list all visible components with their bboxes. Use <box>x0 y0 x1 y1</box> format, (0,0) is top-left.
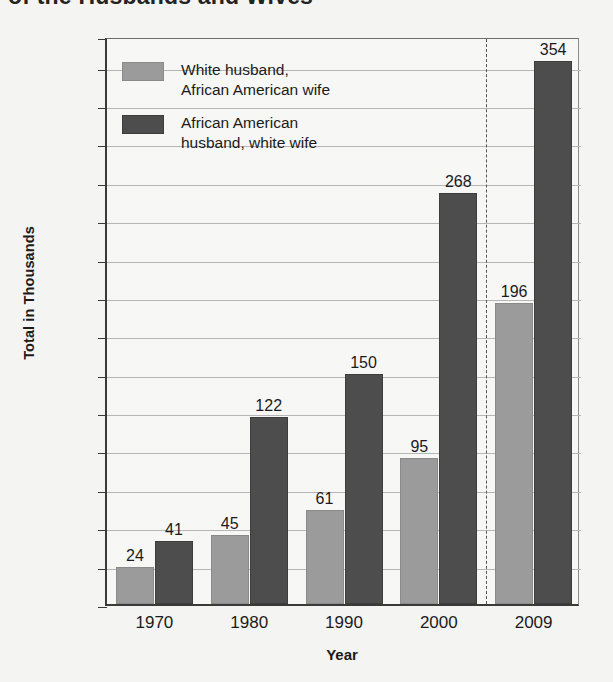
gridline <box>107 262 581 263</box>
y-axis-tick <box>98 300 107 301</box>
legend-item: White husband, African American wife <box>122 60 330 100</box>
chart-legend: White husband, African American wifeAfri… <box>122 60 330 166</box>
bar <box>534 61 572 604</box>
bar <box>306 510 344 604</box>
bar-value-label: 45 <box>221 515 239 533</box>
bar <box>250 417 288 604</box>
x-axis-title: Year <box>105 646 579 663</box>
bar <box>211 535 249 604</box>
y-axis-tick <box>98 185 107 186</box>
bar-value-label: 24 <box>126 547 144 565</box>
y-axis-tick <box>98 39 107 40</box>
y-axis-tick <box>98 223 107 224</box>
bar <box>495 303 533 604</box>
gridline <box>107 223 581 224</box>
y-axis-tick <box>98 530 107 531</box>
y-axis-title: Total in Thousands <box>21 198 37 388</box>
y-axis-tick <box>98 377 107 378</box>
bar <box>400 458 438 604</box>
y-axis-tick <box>98 108 107 109</box>
bar-value-label: 268 <box>445 173 472 191</box>
x-axis-tick-label: 2009 <box>515 613 553 633</box>
y-axis-tick <box>98 453 107 454</box>
x-axis-tick-label: 1970 <box>135 613 173 633</box>
bar-value-label: 196 <box>501 283 528 301</box>
gridline <box>107 185 581 186</box>
bar <box>155 541 193 604</box>
period-divider-line <box>486 39 487 604</box>
legend-label: White husband, African American wife <box>181 60 330 100</box>
bar <box>116 567 154 604</box>
title-fade-overlay <box>0 6 613 18</box>
y-axis-tick <box>98 569 107 570</box>
legend-item: African American husband, white wife <box>122 113 330 153</box>
x-axis-tick-label: 2000 <box>420 613 458 633</box>
chart-figure: of the Husbands and Wives Total in Thous… <box>0 0 613 682</box>
y-axis-tick <box>98 338 107 339</box>
y-axis-tick <box>98 607 107 608</box>
y-axis-tick <box>98 415 107 416</box>
y-axis-tick <box>98 262 107 263</box>
legend-swatch <box>122 115 164 134</box>
y-axis-tick <box>98 492 107 493</box>
bar-value-label: 122 <box>255 397 282 415</box>
bar-value-label: 61 <box>316 490 334 508</box>
legend-swatch <box>122 62 164 81</box>
bar-value-label: 41 <box>165 521 183 539</box>
x-axis-tick-label: 1990 <box>325 613 363 633</box>
y-axis-tick <box>98 70 107 71</box>
bar-value-label: 150 <box>350 354 377 372</box>
bar-value-label: 354 <box>540 41 567 59</box>
bar-value-label: 95 <box>410 438 428 456</box>
bar <box>439 193 477 604</box>
legend-label: African American husband, white wife <box>181 113 317 153</box>
y-axis-tick <box>98 146 107 147</box>
bar <box>345 374 383 604</box>
x-axis-tick-label: 1980 <box>230 613 268 633</box>
